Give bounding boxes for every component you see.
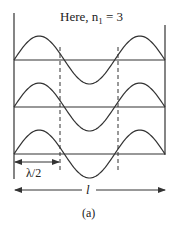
length-label: l <box>86 182 90 197</box>
half-wavelength-label: λ/2 <box>26 166 41 180</box>
diagram-title: Here, n1 = 3 <box>60 9 123 26</box>
standing-wave-diagram: Here, n1 = 3 λ/2 l (a) <box>0 0 177 230</box>
figure-caption: (a) <box>82 206 95 220</box>
